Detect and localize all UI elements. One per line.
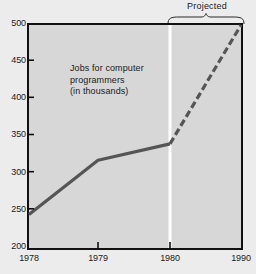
plot-area bbox=[27, 23, 243, 250]
y-tick-label: 300 bbox=[2, 167, 26, 177]
x-tick-label: 1990 bbox=[224, 253, 256, 263]
y-axis-labels: 500 450 400 350 300 250 200 bbox=[0, 0, 26, 274]
x-tick-label: 1979 bbox=[81, 253, 115, 263]
y-tick-label: 200 bbox=[2, 241, 26, 251]
y-tick-label: 350 bbox=[2, 129, 26, 139]
y-tick-label: 450 bbox=[2, 55, 26, 65]
chart-container: Projected 500 450 400 bbox=[0, 0, 256, 274]
annotation-line-1: Jobs for computer bbox=[70, 63, 144, 75]
y-tick-label: 400 bbox=[2, 92, 26, 102]
projected-brace-icon bbox=[167, 11, 245, 23]
annotation-line-2: programmers bbox=[70, 75, 144, 87]
x-tick-label: 1980 bbox=[153, 253, 187, 263]
chart-annotation: Jobs for computer programmers (in thousa… bbox=[70, 63, 144, 98]
y-tick-label: 500 bbox=[2, 18, 26, 28]
annotation-line-3: (in thousands) bbox=[70, 86, 144, 98]
projected-bracket-label: Projected bbox=[168, 1, 246, 11]
x-tick-label: 1978 bbox=[12, 253, 46, 263]
y-tick-label: 250 bbox=[2, 204, 26, 214]
